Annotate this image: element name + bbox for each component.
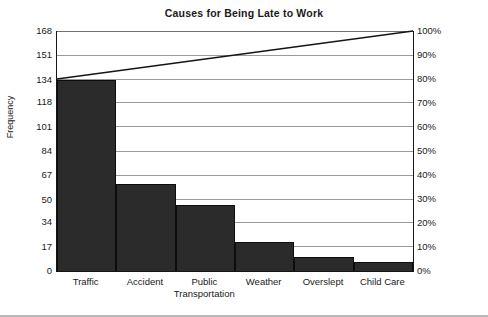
y-tick-label: 34 (4, 217, 52, 227)
y2-tick-label: 30% (417, 194, 463, 204)
y2-tick-label: 50% (417, 146, 463, 156)
cumulative-line-path (57, 31, 413, 79)
y-tick-label: 101 (4, 122, 52, 132)
pareto-chart-figure: Causes for Being Late to Work Frequency … (0, 0, 488, 317)
plot-inner (57, 31, 413, 271)
x-axis-ticks: TrafficAccidentPublic TransportationWeat… (56, 276, 412, 312)
y-tick-label: 0 (4, 266, 52, 276)
y2-tick-label: 20% (417, 218, 463, 228)
y2-tick-label: 100% (417, 26, 463, 36)
y2-tick-label: 80% (417, 74, 463, 84)
y-tick-label: 151 (4, 50, 52, 60)
y2-tick-label: 0% (417, 266, 463, 276)
y-axis-right-ticks: 0%10%20%30%40%50%60%70%80%90%100% (417, 31, 467, 271)
y2-tick-label: 60% (417, 122, 463, 132)
y-tick-label: 17 (4, 242, 52, 252)
y2-tick-label: 10% (417, 242, 463, 252)
plot-area (56, 31, 414, 272)
y2-tick-label: 90% (417, 50, 463, 60)
y-tick-label: 50 (4, 195, 52, 205)
y-axis-left-ticks: 01734506784101118134151168 (0, 31, 52, 271)
chart-title: Causes for Being Late to Work (0, 7, 488, 19)
y2-tick-label: 40% (417, 170, 463, 180)
y-tick-label: 134 (4, 75, 52, 85)
y-tick-label: 67 (4, 170, 52, 180)
y-tick-label: 118 (4, 97, 52, 107)
x-tick-label: Child Care (345, 276, 420, 288)
y2-tick-label: 70% (417, 98, 463, 108)
y-tick-label: 84 (4, 146, 52, 156)
y-tick-label: 168 (4, 26, 52, 36)
cumulative-percentage-line (57, 31, 413, 271)
